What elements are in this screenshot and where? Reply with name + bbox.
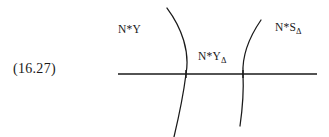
label-middle-base: N*Y	[198, 50, 221, 62]
label-right-subscript: Δ	[296, 26, 301, 36]
label-middle-subscript: Δ	[221, 55, 226, 65]
label-left-base: N*Y	[118, 23, 141, 35]
label-right-base: N*S	[275, 21, 296, 33]
left-curve	[167, 8, 187, 137]
equation-figure: (16.27) N*Y N*YΔ N*SΔ	[0, 0, 329, 137]
label-right-region: N*SΔ	[275, 22, 302, 36]
label-left-region: N*Y	[118, 24, 141, 38]
label-middle-region: N*YΔ	[198, 51, 226, 65]
